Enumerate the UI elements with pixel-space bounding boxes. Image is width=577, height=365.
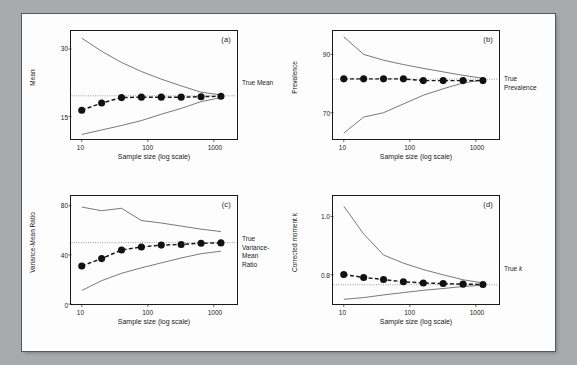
plot-svg-d — [333, 196, 499, 304]
y-tick-label: 15 — [61, 114, 68, 121]
panel-b: Prevalence 7090 (b) 101001000 Sample siz… — [290, 22, 537, 180]
x-tick-label: 10 — [339, 309, 346, 316]
x-axis-label-a: Sample size (log scale) — [70, 153, 238, 160]
y-axis-label-c: Variance-Mean Ratio — [26, 187, 38, 297]
panel-c: Variance-Mean Ratio 04080 (c) 101001000 … — [28, 187, 275, 345]
x-tick-label: 1000 — [470, 309, 484, 316]
x-axis-label-d: Sample size (log scale) — [332, 318, 500, 325]
y-ticks-b: 7090 — [304, 30, 330, 140]
x-tick-label: 1000 — [470, 144, 484, 151]
y-axis-label-a: Mean — [26, 22, 38, 132]
y-tick-label: 0.8 — [321, 272, 330, 279]
y-axis-label-d: Corrected moment k — [288, 187, 300, 297]
y-ticks-d: 0.81.0 — [304, 195, 330, 305]
y-tick-label: 1.0 — [321, 212, 330, 219]
annotation-d: True k — [504, 265, 522, 274]
y-tick-label: 30 — [61, 45, 68, 52]
x-tick-label: 10 — [77, 144, 84, 151]
x-tick-label: 100 — [142, 144, 153, 151]
x-axis-label-c: Sample size (log scale) — [70, 318, 238, 325]
plot-area-b: (b) — [332, 30, 500, 140]
x-tick-label: 100 — [142, 309, 153, 316]
x-tick-label: 1000 — [208, 309, 222, 316]
panel-a: Mean 1530 (a) 101001000 Sample size (log… — [28, 22, 275, 180]
scanned-page: Mean 1530 (a) 101001000 Sample size (log… — [22, 14, 555, 351]
plot-area-c: (c) — [70, 195, 238, 305]
annotation-c: True Variance- Mean Ratio — [242, 235, 269, 269]
y-tick-label: 80 — [61, 202, 68, 209]
x-axis-label-b: Sample size (log scale) — [332, 153, 500, 160]
panel-letter-d: (d) — [483, 200, 493, 209]
panel-letter-b: (b) — [483, 35, 493, 44]
plot-svg-b — [333, 31, 499, 139]
plot-svg-a — [71, 31, 237, 139]
y-ticks-c: 04080 — [42, 195, 68, 305]
x-tick-label: 10 — [77, 309, 84, 316]
x-tick-label: 10 — [339, 144, 346, 151]
y-axis-label-b: Prevalence — [288, 22, 300, 132]
x-tick-label: 1000 — [208, 144, 222, 151]
plot-area-d: (d) — [332, 195, 500, 305]
plot-area-a: (a) — [70, 30, 238, 140]
annotation-b: True Prevalence — [504, 75, 537, 92]
y-tick-label: 0 — [64, 302, 68, 309]
y-tick-label: 90 — [323, 50, 330, 57]
panel-letter-a: (a) — [221, 35, 231, 44]
panel-d: Corrected moment k 0.81.0 (d) 101001000 … — [290, 187, 537, 345]
panel-letter-c: (c) — [222, 200, 231, 209]
plot-svg-c — [71, 196, 237, 304]
x-tick-label: 100 — [404, 309, 415, 316]
y-ticks-a: 1530 — [42, 30, 68, 140]
annotation-a: True Mean — [242, 79, 273, 88]
y-tick-label: 70 — [323, 110, 330, 117]
y-tick-label: 40 — [61, 252, 68, 259]
x-tick-label: 100 — [404, 144, 415, 151]
